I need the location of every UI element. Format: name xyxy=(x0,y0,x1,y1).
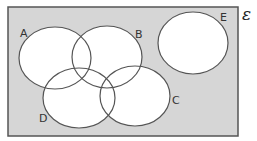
set-c-label: C xyxy=(172,94,180,107)
set-b-label: B xyxy=(135,28,143,41)
universal-set-symbol: ε xyxy=(242,4,251,24)
set-d-label: D xyxy=(39,112,47,125)
set-e-label: E xyxy=(220,11,227,24)
venn-diagram: A B C D E ε xyxy=(0,0,257,141)
set-a-label: A xyxy=(20,27,28,40)
